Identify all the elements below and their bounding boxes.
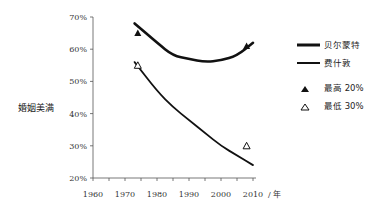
- legend-label-top: 最高 20%: [324, 83, 364, 93]
- y-tick-label: 40%: [69, 110, 87, 119]
- series-line-0: [135, 23, 253, 61]
- chart-svg: 20%30%40%50%60%70% 196019701980199020002…: [0, 0, 376, 214]
- legend-label-bottom: 最低 30%: [324, 101, 364, 111]
- x-tick-label: 2000: [211, 190, 231, 199]
- legend: 贝尔蒙特 费什敦 最高 20% 最低 30%: [297, 40, 364, 111]
- y-tick-label: 70%: [69, 13, 87, 22]
- x-tick-label: 1980: [147, 190, 167, 199]
- x-axis-unit: / 年: [268, 189, 281, 199]
- open-triangle-icon: [301, 104, 309, 110]
- x-tick-label: 1990: [179, 190, 199, 199]
- series-line-1: [135, 62, 253, 165]
- x-tick-label: 1960: [83, 190, 103, 199]
- y-tick-label: 60%: [69, 45, 87, 54]
- y-axis-label: 婚姻美满: [18, 102, 54, 113]
- data-marker-bottom: [243, 142, 250, 149]
- y-tick-label: 30%: [69, 142, 87, 151]
- y-tick-label: 50%: [69, 77, 87, 86]
- filled-triangle-icon: [301, 86, 309, 92]
- data-marker-top: [134, 30, 141, 36]
- legend-label-fishtown: 费什敦: [324, 58, 351, 68]
- y-tick-label: 20%: [69, 174, 87, 183]
- x-tick-label: 1970: [115, 190, 135, 199]
- x-tick-label: 2010: [243, 190, 263, 199]
- legend-label-belmont: 贝尔蒙特: [324, 40, 360, 50]
